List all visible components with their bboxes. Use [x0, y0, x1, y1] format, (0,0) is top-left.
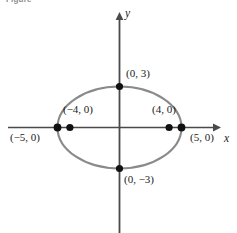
point-minus4-0-marker	[66, 124, 73, 131]
point-minus5-0-label: (−5, 0)	[10, 132, 40, 143]
point-0-3-label: (0, 3)	[126, 68, 150, 79]
y-axis-arrowhead	[116, 12, 124, 20]
y-axis-label: y	[125, 8, 130, 20]
point-minus5-0-marker	[54, 124, 62, 132]
x-axis-arrowhead	[213, 124, 221, 132]
coordinate-plane-graphic	[0, 0, 237, 233]
point-0-minus3-marker	[116, 165, 123, 172]
point-5-0-label: (5, 0)	[190, 132, 214, 143]
point-4-0-label: (4, 0)	[152, 104, 176, 115]
point-4-0-marker	[166, 124, 173, 131]
point-5-0-marker	[178, 124, 186, 132]
point-minus4-0-label: (−4, 0)	[63, 104, 93, 115]
point-0-minus3-label: (0, −3)	[124, 174, 154, 185]
x-axis-label: x	[224, 133, 229, 145]
figure-container: Figure (0, 3) (0, −3) (−4, 0) (4, 0) (−5…	[0, 0, 237, 233]
y-axis	[116, 12, 124, 233]
point-0-3-marker	[116, 83, 123, 90]
